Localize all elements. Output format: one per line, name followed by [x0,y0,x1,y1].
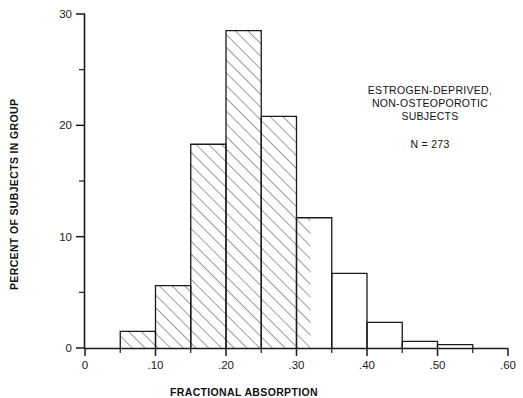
y-tick-label: 20 [59,119,72,131]
bar-hatch [367,322,402,348]
y-axis-title: PERCENT OF SUBJECTS IN GROUP [8,99,20,290]
y-tick-label: 0 [66,342,72,354]
bar-hatch [332,273,367,348]
histogram-bar [438,345,473,348]
histogram-bar [367,322,402,348]
bar-hatch [226,31,261,348]
annotation-line-1: ESTROGEN-DEPRIVED, [368,84,492,96]
x-axis-title: FRACTIONAL ABSORPTION [170,386,318,398]
x-tick-label: 0 [82,359,88,371]
histogram-figure: 0102030 0.10.20.30.40.50.60 PERCENT OF S… [0,0,523,398]
bar-hatch [120,331,155,348]
bar-hatch [156,286,191,348]
y-axis-tick-labels: 0102030 [59,8,72,354]
x-axis-tick-labels: 0.10.20.30.40.50.60 [82,359,516,371]
bar-hatch [261,116,296,348]
histogram-bar [402,341,437,348]
bar-hatch [191,144,226,348]
x-tick-label: .10 [148,359,164,371]
x-tick-label: .30 [289,359,305,371]
chart-canvas: 0102030 0.10.20.30.40.50.60 PERCENT OF S… [0,0,523,398]
x-tick-label: .50 [430,359,446,371]
annotation-block: ESTROGEN-DEPRIVED, NON-OSTEOPOROTIC SUBJ… [368,84,492,150]
x-tick-label: .20 [218,359,234,371]
y-tick-label: 30 [59,8,72,20]
annotation-line-3: SUBJECTS [401,110,458,122]
bar-hatch [297,218,332,348]
x-tick-label: .40 [359,359,375,371]
y-axis-ticks [76,14,85,348]
y-tick-label: 10 [59,231,72,243]
histogram-bar [332,273,367,348]
annotation-line-2: NON-OSTEOPOROTIC [372,97,488,109]
bar-hatch [402,341,437,348]
x-tick-label: .60 [500,359,516,371]
sample-size-label: N = 273 [410,138,449,150]
